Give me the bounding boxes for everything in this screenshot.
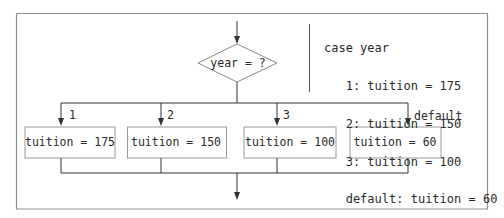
action-label-3: tuition = 100 bbox=[245, 135, 335, 149]
branch-label-2: 2 bbox=[167, 108, 174, 122]
branch-label-3: 3 bbox=[283, 108, 290, 122]
action-box-1: tuition = 175 bbox=[25, 127, 115, 158]
code-line: default: tuition = 60 bbox=[324, 193, 497, 206]
diagram-frame bbox=[17, 14, 247, 210]
code-line: 2: tuition = 150 bbox=[324, 118, 497, 131]
branch-arrow-2 bbox=[158, 103, 164, 126]
pseudocode-block: case year 1: tuition = 175 2: tuition = … bbox=[324, 17, 497, 218]
exit-arrow bbox=[234, 173, 240, 200]
action-label-2: tuition = 150 bbox=[131, 135, 221, 149]
code-line: 3: tuition = 100 bbox=[324, 156, 497, 169]
decision-diamond: year = ? bbox=[198, 44, 277, 82]
decision-label: year = ? bbox=[210, 56, 265, 70]
case-structure-diagram: year = ? 1 2 3 default tu bbox=[0, 0, 504, 218]
entry-arrow bbox=[234, 21, 240, 44]
code-line: case year bbox=[324, 42, 497, 55]
action-box-3: tuition = 100 bbox=[244, 127, 336, 158]
branch-arrow-1 bbox=[58, 103, 64, 126]
branch-label-1: 1 bbox=[69, 108, 76, 122]
code-line: 1: tuition = 175 bbox=[324, 80, 497, 93]
action-box-2: tuition = 150 bbox=[128, 127, 227, 158]
branch-arrow-3 bbox=[274, 103, 280, 126]
action-label-1: tuition = 175 bbox=[25, 135, 115, 149]
